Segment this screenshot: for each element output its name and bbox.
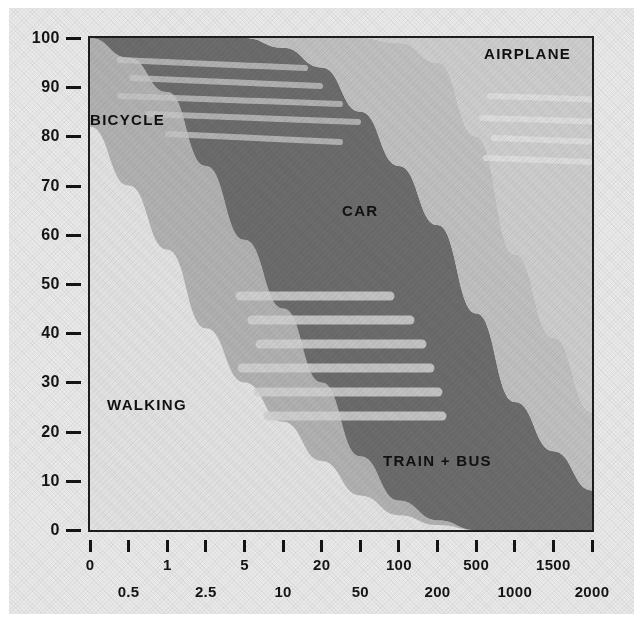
y-axis-tick-60 (66, 234, 81, 237)
x-axis-label-100: 100 (369, 556, 429, 573)
y-axis-label-20: 20 (14, 423, 60, 441)
y-axis-tick-50 (66, 283, 81, 286)
x-axis-tick-500 (475, 540, 478, 552)
y-axis-label-40: 40 (14, 324, 60, 342)
x-axis-label-2000: 2000 (562, 583, 622, 600)
x-axis-tick-2000 (591, 540, 594, 552)
x-axis-tick-1500 (552, 540, 555, 552)
x-axis-tick-5 (243, 540, 246, 552)
y-axis-label-70: 70 (14, 177, 60, 195)
x-axis-label-50: 50 (330, 583, 390, 600)
x-axis-label-1: 1 (137, 556, 197, 573)
y-axis-tick-10 (66, 480, 81, 483)
y-axis-label-10: 10 (14, 472, 60, 490)
stacked-area-series (90, 38, 592, 530)
x-axis-label-1000: 1000 (485, 583, 545, 600)
x-axis-tick-0.5 (127, 540, 130, 552)
page-edge-bottom (0, 614, 642, 622)
area-label-walking: WALKING (107, 396, 187, 413)
x-axis-tick-10 (282, 540, 285, 552)
page-edge-top (0, 0, 642, 8)
page-edge-left (0, 0, 9, 622)
y-axis-label-30: 30 (14, 373, 60, 391)
x-axis-tick-2.5 (204, 540, 207, 552)
x-axis-label-5: 5 (214, 556, 274, 573)
x-axis-tick-0 (89, 540, 92, 552)
y-axis-tick-90 (66, 86, 81, 89)
x-axis-label-200: 200 (408, 583, 468, 600)
x-axis-tick-50 (359, 540, 362, 552)
y-axis-tick-40 (66, 332, 81, 335)
y-axis-tick-80 (66, 135, 81, 138)
area-label-car: CAR (342, 202, 378, 219)
y-axis-tick-30 (66, 381, 81, 384)
x-axis-label-20: 20 (292, 556, 352, 573)
x-axis-tick-100 (397, 540, 400, 552)
y-axis-tick-70 (66, 185, 81, 188)
x-axis-label-10: 10 (253, 583, 313, 600)
x-axis-tick-20 (320, 540, 323, 552)
x-axis-tick-200 (436, 540, 439, 552)
area-label-airplane: AIRPLANE (484, 45, 571, 62)
area-label-bicycle: BICYCLE (90, 111, 165, 128)
y-axis-label-0: 0 (14, 521, 60, 539)
y-axis-label-100: 100 (14, 29, 60, 47)
page-edge-right (634, 0, 642, 622)
chart-page: 1009080706050403020100 BICYCLEAIRPLANECA… (0, 0, 642, 622)
x-axis-label-0: 0 (60, 556, 120, 573)
y-axis-label-60: 60 (14, 226, 60, 244)
y-axis-label-50: 50 (14, 275, 60, 293)
y-axis-tick-20 (66, 431, 81, 434)
area-label-train-bus: TRAIN + BUS (383, 452, 492, 469)
y-axis-label-80: 80 (14, 127, 60, 145)
y-axis-label-90: 90 (14, 78, 60, 96)
x-axis-label-0.5: 0.5 (99, 583, 159, 600)
y-axis-tick-100 (66, 37, 81, 40)
x-axis-tick-1000 (513, 540, 516, 552)
y-axis-tick-0 (66, 529, 81, 532)
x-axis-label-500: 500 (446, 556, 506, 573)
x-axis-label-1500: 1500 (523, 556, 583, 573)
x-axis-tick-1 (166, 540, 169, 552)
x-axis-label-2.5: 2.5 (176, 583, 236, 600)
